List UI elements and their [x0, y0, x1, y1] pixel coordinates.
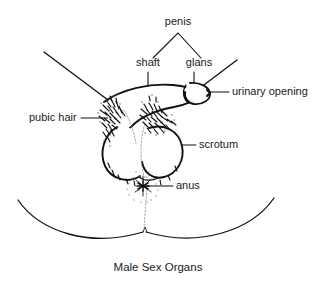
label-urinary-opening: urinary opening — [232, 85, 308, 97]
label-glans: glans — [186, 56, 213, 68]
glans — [184, 83, 211, 104]
label-scrotum: scrotum — [199, 138, 238, 150]
diagram-root: penis shaft glans urinary opening pubic … — [0, 0, 333, 288]
label-penis: penis — [165, 15, 192, 27]
figure-caption: Male Sex Organs — [114, 261, 203, 273]
label-pubic-hair: pubic hair — [29, 111, 77, 123]
label-anus: anus — [176, 179, 200, 191]
male-sex-organs-diagram: penis shaft glans urinary opening pubic … — [0, 0, 333, 288]
label-shaft: shaft — [136, 56, 160, 68]
